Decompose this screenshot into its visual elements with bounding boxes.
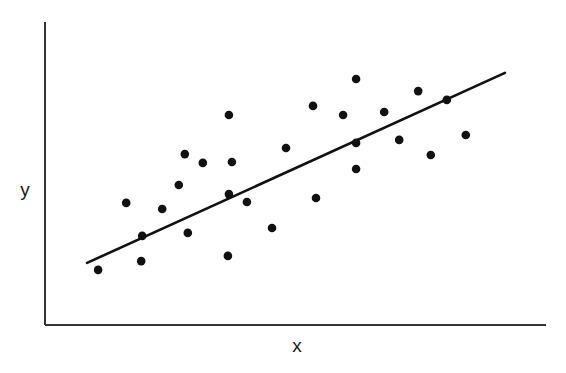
data-point [339, 111, 348, 120]
data-point [181, 150, 190, 159]
data-point [122, 199, 131, 208]
data-point [224, 252, 233, 261]
data-point [352, 75, 361, 84]
data-point [380, 108, 389, 117]
axes [45, 22, 546, 325]
data-point [352, 165, 361, 174]
data-point [268, 224, 277, 233]
data-point [199, 159, 208, 168]
data-point [184, 229, 193, 238]
data-point [158, 205, 167, 214]
data-point [94, 266, 103, 275]
scatter-chart: y x [0, 0, 566, 373]
data-point [309, 102, 318, 111]
trend-line [87, 73, 505, 263]
data-point [137, 257, 146, 266]
data-point [395, 136, 404, 145]
data-point [312, 194, 321, 203]
data-point [462, 131, 471, 140]
data-point [228, 158, 237, 167]
data-point [243, 198, 252, 207]
data-point [414, 87, 423, 96]
y-axis-label: y [20, 179, 30, 200]
data-point [282, 144, 291, 153]
x-axis-label: x [292, 335, 302, 356]
data-point [225, 111, 234, 120]
data-point [175, 181, 184, 190]
data-point [427, 151, 436, 160]
